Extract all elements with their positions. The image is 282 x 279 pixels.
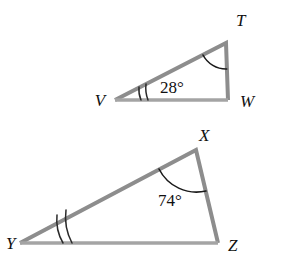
vertex-label-y: Y	[6, 234, 17, 253]
angle-measure-28: 28°	[160, 78, 184, 97]
triangle-xyz: X Y Z 74°	[6, 126, 238, 255]
vertex-label-z: Z	[228, 236, 238, 255]
vertex-label-v: V	[95, 91, 108, 110]
triangle-tvw: T V W 28°	[95, 11, 256, 111]
angle-tick-v-2	[146, 84, 148, 100]
vertex-label-x: X	[198, 126, 210, 145]
vertex-label-t: T	[236, 11, 247, 30]
vertex-label-w: W	[240, 92, 256, 111]
triangle-xyz-sides	[20, 150, 218, 243]
angle-arc-x	[159, 169, 206, 192]
geometry-canvas: T V W 28° X Y Z 74°	[0, 0, 282, 279]
angle-arc-t	[203, 55, 227, 69]
angle-measure-74: 74°	[158, 191, 182, 210]
geometry-figure: T V W 28° X Y Z 74°	[0, 0, 282, 279]
